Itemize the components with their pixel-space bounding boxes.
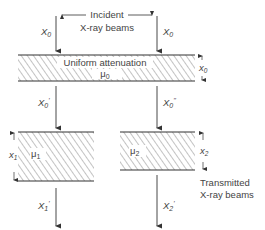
left-slab-hatch — [18, 132, 94, 181]
intermediate-beam-right-label: X0'' — [162, 97, 177, 109]
transmitted-title-line2: X-ray beams — [200, 189, 254, 200]
left-slab: μ1 x1 — [8, 132, 94, 181]
incident-title-line2: X-ray beams — [80, 22, 134, 33]
incident-header: Incident X-ray beams — [62, 9, 152, 33]
uniform-slab: Uniform attenuation μ0 x0 — [18, 55, 208, 81]
intermediate-beam-left-label: X0' — [37, 97, 50, 109]
uniform-slab-label: Uniform attenuation — [64, 57, 147, 68]
incident-title-line1: Incident — [90, 9, 124, 20]
incident-beam-right-label: X0 — [162, 26, 173, 38]
x2-thickness-label: x2 — [199, 145, 209, 157]
transmitted-beam-right-label: X2' — [162, 200, 175, 212]
attenuation-diagram: Incident X-ray beams X0 X0 Uniform atten… — [0, 0, 265, 230]
right-slab: μ2 x2 — [120, 132, 209, 170]
x1-thickness-label: x1 — [8, 149, 18, 161]
transmitted-title-line1: Transmitted — [200, 177, 250, 188]
x0-thickness-label: x0 — [198, 62, 208, 74]
transmitted-beam-left-label: X1' — [37, 200, 50, 212]
incident-beam-left-label: X0 — [40, 26, 51, 38]
